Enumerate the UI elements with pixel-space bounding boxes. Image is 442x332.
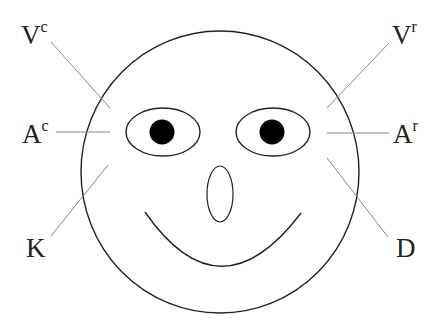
right-pupil	[260, 120, 285, 145]
leader-d	[327, 158, 388, 237]
leader-k	[51, 165, 108, 236]
face-outline	[81, 31, 359, 313]
mouth	[145, 212, 301, 266]
label-vr: Vr	[392, 22, 417, 49]
face-diagram	[0, 0, 442, 332]
label-ar: Ar	[393, 121, 418, 148]
label-d: D	[396, 235, 416, 262]
label-k: K	[26, 235, 46, 262]
nose	[207, 166, 233, 222]
label-vc: Vc	[21, 22, 48, 49]
leader-vr	[327, 43, 389, 108]
leader-vc	[51, 42, 110, 108]
left-pupil	[150, 120, 175, 145]
label-ac: Ac	[22, 121, 49, 148]
